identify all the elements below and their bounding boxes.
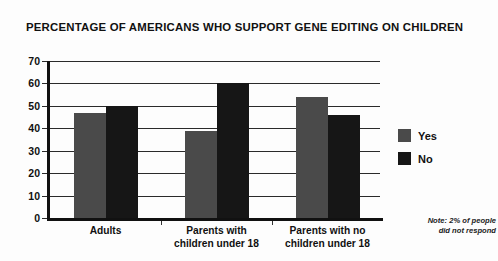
legend-swatch-yes [398, 129, 411, 142]
bar-group [74, 61, 138, 218]
legend-item-no[interactable]: No [398, 152, 437, 165]
legend-label: Yes [418, 130, 437, 142]
bar-group [296, 61, 360, 218]
bar-no [328, 115, 360, 218]
y-tick-mark [42, 128, 47, 129]
y-tick-label: 70 [28, 55, 40, 67]
y-tick-mark [42, 61, 47, 62]
y-tick-label: 50 [28, 100, 40, 112]
x-category-label: Parents withchildren under 18 [161, 225, 272, 250]
bar-no [106, 106, 138, 218]
chart-annotation-line: Note: 2% of people [392, 216, 496, 226]
chart-annotation: Note: 2% of peopledid not respond [392, 216, 496, 236]
chart-container: PERCENTAGE OF AMERICANS WHO SUPPORT GENE… [0, 0, 498, 261]
chart-legend: YesNo [398, 129, 437, 175]
x-category-label-line: Parents with [161, 225, 272, 238]
bar-yes [185, 131, 217, 218]
y-tick-mark [42, 151, 47, 152]
y-axis-line [47, 61, 50, 218]
y-tick-label: 10 [28, 190, 40, 202]
y-tick-label: 40 [28, 122, 40, 134]
chart-title: PERCENTAGE OF AMERICANS WHO SUPPORT GENE… [26, 21, 463, 33]
x-category-label-line: Adults [50, 225, 161, 238]
bar-yes [296, 97, 328, 218]
y-tick-mark [42, 106, 47, 107]
legend-label: No [418, 153, 433, 165]
bar-yes [74, 113, 106, 218]
x-category-label-line: children under 18 [272, 238, 383, 251]
x-axis-line [47, 218, 383, 221]
x-category-label: Adults [50, 225, 161, 238]
x-category-label-line: children under 18 [161, 238, 272, 251]
y-tick-label: 0 [34, 212, 40, 224]
y-tick-label: 30 [28, 145, 40, 157]
y-tick-mark [42, 196, 47, 197]
plot-area: 010203040506070 AdultsParents withchildr… [47, 61, 380, 218]
legend-item-yes[interactable]: Yes [398, 129, 437, 142]
y-tick-label: 60 [28, 77, 40, 89]
chart-annotation-line: did not respond [392, 226, 496, 236]
y-tick-mark [42, 218, 47, 219]
x-category-label: Parents with nochildren under 18 [272, 225, 383, 250]
y-tick-mark [42, 83, 47, 84]
x-category-label-line: Parents with no [272, 225, 383, 238]
bar-no [217, 83, 249, 218]
bar-group [185, 61, 249, 218]
y-tick-mark [42, 173, 47, 174]
y-tick-label: 20 [28, 167, 40, 179]
legend-swatch-no [398, 152, 411, 165]
